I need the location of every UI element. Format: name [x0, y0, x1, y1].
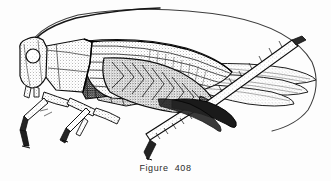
grasshopper-illustration	[0, 0, 331, 181]
figure-page: Figure 408	[0, 0, 331, 181]
figure-caption: Figure 408	[0, 163, 331, 173]
compound-eye	[26, 49, 40, 63]
